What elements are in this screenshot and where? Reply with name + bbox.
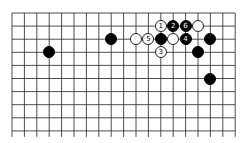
white-stone[interactable]: 3 [155, 46, 167, 58]
black-stone[interactable] [155, 33, 167, 45]
board-grid [0, 0, 243, 143]
go-board[interactable]: 126543 [0, 0, 243, 143]
white-stone[interactable]: 1 [155, 20, 167, 32]
black-stone[interactable]: 4 [180, 33, 192, 45]
black-stone[interactable]: 6 [180, 20, 192, 32]
white-stone[interactable] [192, 20, 204, 32]
black-stone[interactable] [204, 73, 216, 85]
